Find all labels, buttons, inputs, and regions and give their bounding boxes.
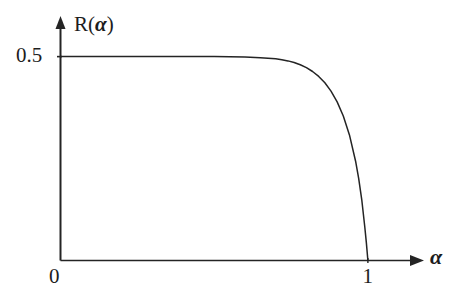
plot-canvas [0,0,455,303]
curve-r-alpha [61,57,368,261]
y-axis-title-variable: α [95,12,107,36]
figure-container: R(α) 0.5 0 1 α [0,0,455,303]
y-axis-title-suffix: ) [107,12,114,36]
x-axis-arrow-icon [410,255,424,266]
y-tick-label-0-5: 0.5 [16,45,42,66]
y-axis-group [56,16,66,261]
y-axis-title-prefix: R( [74,12,95,36]
y-axis-title: R(α) [74,14,114,35]
x-tick-label-1: 1 [362,266,373,287]
x-tick-label-0: 0 [49,266,60,287]
x-axis-title: α [430,246,442,268]
y-axis-arrow-icon [56,16,66,29]
